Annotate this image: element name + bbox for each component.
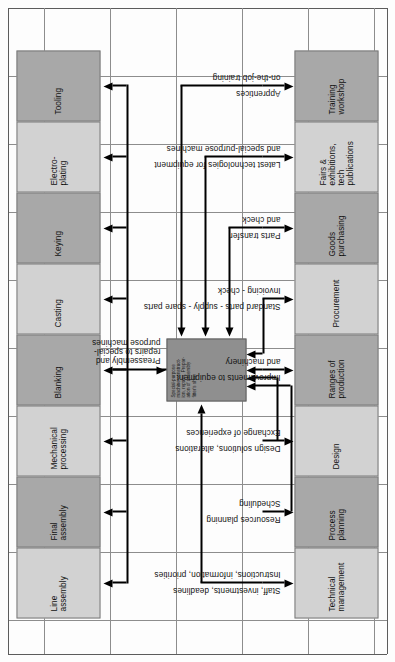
flow-label: and machinery [110,356,280,365]
input-arrowhead [284,295,293,303]
input-arrowhead [284,579,293,587]
input-arrowhead-box [225,327,233,336]
input-shaft [262,298,284,300]
input-cell: Ranges of production [294,334,378,405]
input-shaft [262,511,284,513]
flow-label: Exchange of experiences [110,427,280,436]
input-cell: Design [294,405,378,476]
output-cell: Electro- plating [16,121,100,192]
input-shaft [262,582,284,584]
output-riser [112,227,126,229]
input-cell: Goods purchasing [294,192,378,263]
flow-label: Improvements to equipment [110,372,280,381]
input-arrowhead [284,366,293,374]
input-arrowhead [284,82,293,90]
input-arrowhead-box [246,382,255,390]
flow-label: Latest technologies for equipment [110,159,280,168]
input-shaft [262,156,284,158]
flow-label: on-the-job training [110,72,280,81]
flow-label: Scheduling [110,498,280,507]
input-arrowhead-box [201,327,209,336]
flow-label: Standard parts - supply - spare parts [110,301,280,310]
center-node: Special-purpose machine construct- ion, … [166,338,246,401]
input-arrowhead-box [197,404,205,413]
input-arrowhead [284,224,293,232]
input-elbow [290,386,292,512]
input-shaft [262,227,284,229]
input-shaft [262,369,284,371]
flow-label: Design solutions, alterations [110,443,280,452]
input-riser [228,227,262,229]
output-cell: Final assembly [16,476,100,547]
input-riser [254,385,290,387]
input-shaft [262,440,284,442]
input-riser [180,85,262,87]
input-cell: Process planning [294,476,378,547]
output-riser [112,85,126,87]
output-riser [112,511,126,513]
input-arrowhead [284,153,293,161]
diagram-canvas: Line assemblyFinal assemblyMechanical pr… [0,0,395,662]
output-riser [112,298,126,300]
input-elbow [228,228,230,329]
output-riser [112,369,126,371]
input-riser [200,582,262,584]
output-riser [112,582,126,584]
flow-label: and special-purpose machines [110,143,280,152]
input-cell: Technical management [294,547,378,618]
input-riser [204,156,262,158]
output-cell: Casting [16,263,100,334]
output-cell: Tooling [16,50,100,121]
input-cell: Fairs & exhibitions, tech publications [294,121,378,192]
output-riser [112,156,126,158]
diagram-plane: Line assemblyFinal assemblyMechanical pr… [8,8,387,654]
output-cell: Mechanical processing [16,405,100,476]
flow-label: Parts transfer [110,230,280,239]
flow-label: Apprentices [110,88,280,97]
flow-label: Invoicing - check [110,285,280,294]
input-arrowhead-box [177,327,185,336]
input-cell: Training workshop [294,50,378,121]
flow-label: Staff, investments, deadlines [110,585,280,594]
flow-label: Resources planning [110,514,280,523]
flow-label: Instructions, information, priorities [110,569,280,578]
input-shaft [262,85,284,87]
flow-label: and check [110,214,280,223]
output-riser [112,440,126,442]
output-cell: Keying [16,192,100,263]
output-cell: Line assembly [16,547,100,618]
input-cell: Procurement [294,263,378,334]
